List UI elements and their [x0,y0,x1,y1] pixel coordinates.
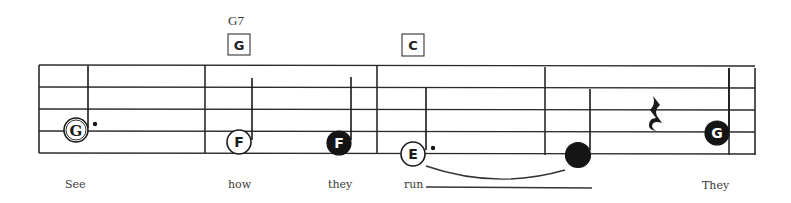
note-letter: F [234,134,244,150]
note-tied-quarter [566,89,591,168]
staff-line-4 [39,131,755,132]
lyric-extender-line [426,187,592,188]
note-g-quarter: G [705,68,729,145]
tie-arc [426,166,565,179]
lyric-word: run [404,178,423,191]
lyric-word: how [228,178,252,191]
staff-line-3 [39,109,755,110]
staff-line-1 [39,65,755,66]
note-f-half: F [227,78,252,154]
notehead-filled [566,143,591,168]
staff-lines [39,65,755,154]
chord-name-label: G7 [228,13,244,28]
chord-box-letter: C [408,38,418,53]
augmentation-dot [431,146,435,150]
chord-box-letter: G [234,38,245,53]
chord-c: C [402,34,424,56]
lyrics: See how they run They [65,178,730,192]
note-letter: F [334,135,344,151]
staff-line-5 [39,153,755,154]
note-f-quarter: F [327,77,351,155]
note-letter: G [711,125,723,141]
lyric-word: they [328,178,353,191]
note-letter: E [408,146,418,162]
chord-g7: G7 G [228,13,250,55]
note-letter: G [70,122,83,140]
staff-line-2 [39,87,755,88]
augmentation-dot [93,122,97,126]
music-staff: G7 G C G F F E [0,0,791,203]
lyric-word: They [702,179,730,192]
quarter-rest-icon [649,96,662,131]
note-e-dotted-half: E [401,88,435,166]
lyric-word: See [65,178,86,191]
